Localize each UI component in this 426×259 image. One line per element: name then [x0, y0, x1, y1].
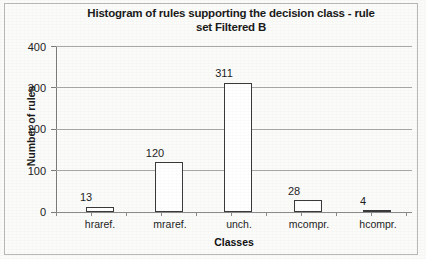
- bar-value-hcompr: 4: [340, 195, 386, 207]
- bar-value-mcompr: 28: [271, 185, 317, 197]
- x-axis-title: Classes: [56, 236, 412, 248]
- bar-mraref[interactable]: [155, 162, 183, 212]
- bar-value-hraref: 13: [63, 191, 109, 203]
- x-tick-mark-2: [126, 212, 127, 216]
- y-tick-label-200: 200: [6, 123, 46, 135]
- bar-unch[interactable]: [224, 83, 252, 212]
- x-tick-mark-9: [371, 212, 372, 216]
- x-tick-mark-1: [91, 212, 92, 216]
- x-tick-mark-5: [231, 212, 232, 216]
- x-tick-mark-3: [161, 212, 162, 216]
- y-tick-label-0: 0: [6, 206, 46, 218]
- y-tick-label-300: 300: [6, 82, 46, 94]
- x-tick-label-hraref: hraref.: [64, 218, 136, 230]
- chart-title: Histogram of rules supporting the decisi…: [56, 6, 406, 34]
- x-tick-mark-6: [266, 212, 267, 216]
- chart-image: Histogram of rules supporting the decisi…: [0, 0, 426, 259]
- bar-value-unch: 311: [201, 67, 247, 79]
- x-axis-line: [56, 212, 412, 213]
- x-tick-mark-8: [336, 212, 337, 216]
- bar-value-mraref: 120: [132, 147, 178, 159]
- x-tick-mark-0: [56, 212, 57, 216]
- x-tick-mark-10: [406, 212, 407, 216]
- x-tick-label-unch: unch.: [203, 218, 275, 230]
- y-tick-label-400: 400: [6, 41, 46, 53]
- chart-title-line-1: Histogram of rules supporting the decisi…: [56, 6, 406, 20]
- x-tick-label-mraref: mraref.: [134, 218, 206, 230]
- x-tick-mark-7: [301, 212, 302, 216]
- gridline-400: [56, 46, 412, 47]
- x-tick-label-hcompr: hcompr.: [342, 218, 414, 230]
- bar-mcompr[interactable]: [294, 200, 322, 212]
- x-tick-label-mcompr: mcompr.: [273, 218, 345, 230]
- chart-title-line-2: set Filtered B: [56, 20, 406, 34]
- y-tick-label-100: 100: [6, 165, 46, 177]
- x-tick-mark-4: [196, 212, 197, 216]
